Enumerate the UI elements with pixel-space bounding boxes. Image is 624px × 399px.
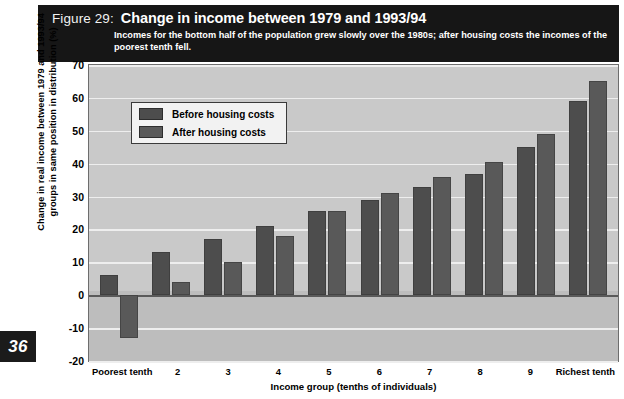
bar-after-housing-costs xyxy=(120,295,138,338)
bar-after-housing-costs xyxy=(381,193,399,295)
figure-header: Figure 29: Change in income between 1979… xyxy=(38,5,619,62)
bar-after-housing-costs xyxy=(537,134,555,295)
bar-before-housing-costs xyxy=(308,211,326,295)
x-axis-tick-label: 7 xyxy=(404,366,454,377)
bar-after-housing-costs xyxy=(224,262,242,295)
bar-after-housing-costs xyxy=(276,236,294,295)
bar-before-housing-costs xyxy=(569,101,587,295)
y-axis-title: Change in real income between 1979 and 1… xyxy=(36,0,60,247)
gridline: -20 xyxy=(89,361,618,363)
legend-label-before: Before housing costs xyxy=(172,109,274,120)
figure-number-label: Figure 29: xyxy=(52,11,114,26)
x-axis-tick-labels: Poorest tenth23456789Richest tenth xyxy=(88,366,619,377)
page-number-box: 36 xyxy=(0,331,36,362)
bar-before-housing-costs xyxy=(152,252,170,295)
legend-swatch-after-icon xyxy=(139,126,163,138)
bar-group xyxy=(458,65,510,361)
y-axis-tick-label: 20 xyxy=(72,223,84,235)
y-axis-tick-label: -20 xyxy=(69,355,84,367)
x-axis-tick-label: Poorest tenth xyxy=(92,366,152,377)
x-axis-tick-label: 9 xyxy=(505,366,555,377)
y-axis-tick-label: 60 xyxy=(72,92,84,104)
bar-group xyxy=(562,65,614,361)
figure-title: Change in income between 1979 and 1993/9… xyxy=(121,10,426,26)
x-axis-tick-label: 4 xyxy=(253,366,303,377)
bar-after-housing-costs xyxy=(589,81,607,295)
y-axis-tick-label: 0 xyxy=(78,289,84,301)
bar-before-housing-costs xyxy=(413,187,431,296)
y-axis-tick-label: 70 xyxy=(72,59,84,71)
bar-after-housing-costs xyxy=(433,177,451,295)
bar-after-housing-costs xyxy=(172,282,190,295)
bar-group xyxy=(510,65,562,361)
bar-before-housing-costs xyxy=(100,275,118,295)
bar-group xyxy=(301,65,353,361)
bar-group xyxy=(353,65,405,361)
y-axis-tick-label: 30 xyxy=(72,191,84,203)
page-number: 36 xyxy=(8,337,28,357)
legend-swatch-before-icon xyxy=(139,108,163,120)
y-axis-tick-label: 40 xyxy=(72,158,84,170)
x-axis-tick-label: 3 xyxy=(203,366,253,377)
bar-after-housing-costs xyxy=(485,162,503,295)
bar-before-housing-costs xyxy=(256,226,274,295)
bar-group xyxy=(406,65,458,361)
x-axis-tick-label: Richest tenth xyxy=(556,366,615,377)
legend: Before housing costs After housing costs xyxy=(131,102,287,144)
bar-after-housing-costs xyxy=(328,211,346,295)
header-title-row: Figure 29: Change in income between 1979… xyxy=(52,10,609,26)
figure-subtitle: Incomes for the bottom half of the popul… xyxy=(114,29,609,53)
figure-root: Figure 29: Change in income between 1979… xyxy=(0,0,624,399)
y-axis-tick-label: 10 xyxy=(72,256,84,268)
x-axis-tick-label: 2 xyxy=(152,366,202,377)
y-axis-tick-label: -10 xyxy=(69,322,84,334)
bar-before-housing-costs xyxy=(517,147,535,295)
bar-before-housing-costs xyxy=(361,200,379,295)
x-axis-title: Income group (tenths of individuals) xyxy=(88,381,619,392)
legend-label-after: After housing costs xyxy=(172,127,266,138)
bar-before-housing-costs xyxy=(465,174,483,296)
x-axis-tick-label: 6 xyxy=(354,366,404,377)
x-axis-tick-label: 5 xyxy=(304,366,354,377)
legend-item-before: Before housing costs xyxy=(139,108,274,120)
y-axis-tick-label: 50 xyxy=(72,125,84,137)
legend-item-after: After housing costs xyxy=(139,126,274,138)
x-axis-tick-label: 8 xyxy=(455,366,505,377)
bar-before-housing-costs xyxy=(204,239,222,295)
